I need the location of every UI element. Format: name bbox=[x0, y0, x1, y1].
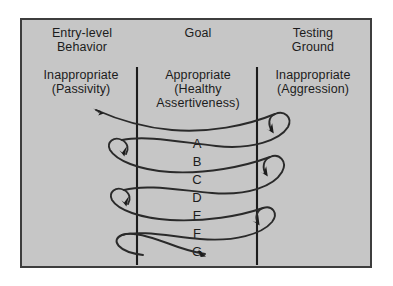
column-heading-testing-ground: Testing Ground bbox=[258, 26, 368, 54]
column-subheading-passivity: Inappropriate (Passivity) bbox=[24, 68, 138, 96]
row-label-e: E bbox=[184, 209, 210, 222]
row-label-c: C bbox=[184, 173, 210, 186]
column-subheading-healthy-assertiveness: Appropriate (Healthy Assertiveness) bbox=[138, 68, 258, 110]
column-heading-goal: Goal bbox=[140, 26, 256, 40]
row-label-f: F bbox=[184, 227, 210, 240]
column-subheading-aggression: Inappropriate (Aggression) bbox=[256, 68, 370, 96]
row-label-g: G bbox=[184, 245, 210, 258]
diagram-page: Entry-level Behavior Goal Testing Ground… bbox=[0, 0, 393, 286]
row-label-b: B bbox=[184, 155, 210, 168]
row-label-d: D bbox=[184, 191, 210, 204]
column-heading-entry-level-behavior: Entry-level Behavior bbox=[26, 26, 138, 54]
row-label-a: A bbox=[184, 137, 210, 150]
